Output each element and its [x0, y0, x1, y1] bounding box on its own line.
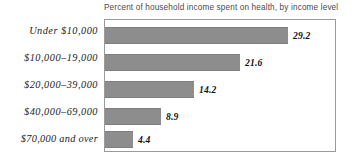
bar-row-0: 29.2: [105, 27, 335, 44]
bar-3: [105, 108, 161, 125]
bar-row-2: 14.2: [105, 81, 335, 98]
bar-4: [105, 131, 133, 148]
bar-2: [105, 81, 194, 98]
bars-layer: 29.2 21.6 14.2 8.9 4.4: [0, 0, 355, 162]
bar-1: [105, 54, 240, 71]
bar-value-4: 4.4: [138, 134, 151, 145]
bar-0: [105, 27, 288, 44]
bar-value-2: 14.2: [199, 84, 217, 95]
bar-value-1: 21.6: [245, 57, 263, 68]
bar-row-3: 8.9: [105, 108, 335, 125]
bar-value-0: 29.2: [293, 30, 311, 41]
bar-row-1: 21.6: [105, 54, 335, 71]
bar-value-3: 8.9: [166, 111, 179, 122]
bar-chart-figure: Percent of household income spent on hea…: [0, 0, 355, 162]
bar-row-4: 4.4: [105, 131, 335, 148]
